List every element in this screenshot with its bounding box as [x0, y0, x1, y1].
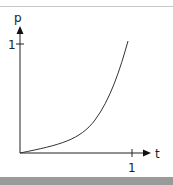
y-tick-label: 1: [8, 38, 16, 52]
y-axis-label: p: [14, 11, 22, 25]
bottom-band: [0, 177, 173, 185]
chart: p 1 t 1: [0, 0, 173, 185]
x-axis-label: t: [155, 147, 160, 161]
x-axis-arrow-icon: [143, 150, 151, 157]
y-axis-arrow-icon: [17, 26, 24, 34]
curve: [20, 41, 128, 153]
x-tick-label: 1: [128, 161, 136, 175]
